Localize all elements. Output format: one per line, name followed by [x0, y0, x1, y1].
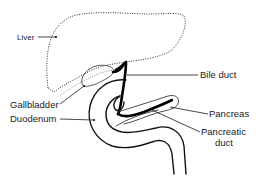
gallbladder-leader: [60, 86, 84, 104]
liver-label: Liver: [17, 33, 35, 42]
pancreas-leader: [170, 107, 208, 114]
pancreas-label: Pancreas: [209, 108, 249, 119]
duodenum-label: Duodenum: [10, 113, 57, 124]
gallbladder-label: Gallbladder: [10, 99, 59, 110]
liver-leader-dot: [55, 36, 57, 38]
pancreatic-duct-label-line1: Pancreatic: [201, 126, 246, 137]
bile-duct-label: Bile duct: [200, 69, 237, 80]
gallbladder-leader-dot: [83, 85, 85, 87]
biliary-anatomy-diagram: Liver Bile duct Gallbladder Duodenum Pan…: [0, 0, 261, 178]
duodenum: [89, 80, 186, 174]
pancreatic-duct-label-line2: duct: [215, 137, 233, 148]
duodenum-leader-dot: [93, 119, 95, 121]
pancreatic-duct-leader: [152, 110, 200, 132]
gallbladder: [60, 65, 116, 96]
